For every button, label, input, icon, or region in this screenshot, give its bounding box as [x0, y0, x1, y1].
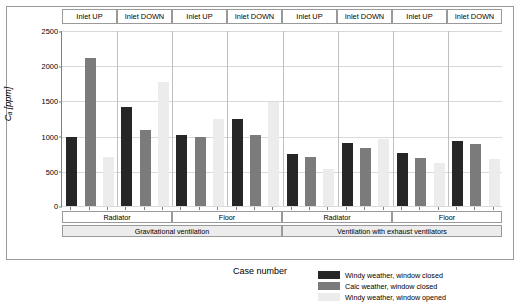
category-separator	[117, 31, 118, 206]
group-label-exhaust-ventilation: Ventilation with exhaust ventilators	[282, 225, 502, 237]
y-tick-mark	[59, 172, 62, 173]
y-tick-label: 1500	[42, 97, 58, 106]
bar-case-5	[140, 130, 151, 206]
legend-label: Windy weather, window closed	[345, 271, 443, 280]
y-tick-label: 2000	[42, 62, 58, 71]
category-separator	[338, 31, 339, 206]
legend-item-windy-window-closed: Windy weather, window closed	[318, 270, 514, 280]
group-label-radiator-2: Radiator	[282, 211, 392, 223]
category-separator	[172, 31, 173, 206]
group-label: Ventilation with exhaust ventilators	[337, 227, 447, 236]
bar-case-13	[287, 154, 298, 206]
bar-case-22	[452, 141, 463, 206]
y-tick-mark	[59, 137, 62, 138]
category-separator	[393, 31, 394, 206]
group-label-floor-2: Floor	[392, 211, 502, 223]
y-tick-label: 0	[54, 202, 58, 211]
legend-item-windy-window-opened: Windy weather, window opened	[318, 292, 514, 302]
legend-item-calc-window-closed: Calc weather, window closed	[318, 281, 514, 291]
header-band-inlet-up-1: Inlet UP	[62, 9, 117, 24]
header-band-inlet-down-1: Inlet DOWN	[117, 9, 172, 24]
bar-case-19	[397, 153, 408, 206]
header-band-label: Inlet DOWN	[125, 12, 164, 21]
group-label-floor-1: Floor	[172, 211, 282, 223]
bar-case-18	[378, 139, 389, 206]
bar-case-14	[305, 157, 316, 206]
group-label: Gravitational ventilation	[135, 227, 210, 236]
header-band-label: Inlet UP	[76, 12, 102, 21]
bar-case-3	[103, 157, 114, 206]
group-label: Floor	[219, 213, 235, 222]
y-tick-mark	[59, 31, 62, 32]
header-band-inlet-down-4: Inlet DOWN	[447, 9, 502, 24]
header-band-label: Inlet UP	[186, 12, 212, 21]
bar-case-21	[434, 163, 445, 206]
y-tick-mark	[59, 66, 62, 67]
y-tick-label: 1000	[42, 132, 58, 141]
group-label: Radiator	[323, 213, 350, 222]
y-tick-label: 500	[46, 167, 58, 176]
group-label: Radiator	[103, 213, 130, 222]
bar-case-24	[489, 159, 500, 206]
legend-label: Calc weather, window closed	[345, 282, 437, 291]
bar-case-23	[470, 144, 481, 206]
bar-case-6	[158, 82, 169, 206]
group-label: Floor	[439, 213, 455, 222]
header-band-inlet-up-2: Inlet UP	[172, 9, 227, 24]
bar-case-11	[250, 135, 261, 206]
header-band-inlet-up-3: Inlet UP	[282, 9, 337, 24]
bar-case-9	[213, 119, 224, 207]
bar-case-20	[415, 158, 426, 206]
y-tick-label: 2500	[42, 27, 58, 36]
group-label-gravitational-ventilation: Gravitational ventilation	[62, 225, 282, 237]
bar-case-7	[176, 135, 187, 206]
bar-case-17	[360, 148, 371, 206]
header-band-label: Inlet DOWN	[235, 12, 274, 21]
header-band-inlet-down-2: Inlet DOWN	[227, 9, 282, 24]
header-band-label: Inlet UP	[406, 12, 432, 21]
header-band-label: Inlet UP	[296, 12, 322, 21]
y-tick-mark	[59, 206, 62, 207]
gridline-0: 0	[62, 206, 502, 207]
bar-case-12	[268, 102, 279, 206]
bar-case-15	[323, 169, 334, 206]
header-band-inlet-down-3: Inlet DOWN	[337, 9, 392, 24]
category-separator	[227, 31, 228, 206]
bar-case-2	[85, 58, 96, 206]
chart-figure: Inlet UP Inlet DOWN Inlet UP Inlet DOWN …	[0, 0, 520, 308]
bar-case-4	[121, 107, 132, 206]
category-separator	[448, 31, 449, 206]
y-tick-mark	[59, 101, 62, 102]
group-label-radiator-1: Radiator	[62, 211, 172, 223]
chart-legend: Windy weather, window closed Calc weathe…	[318, 270, 514, 303]
legend-swatch-icon	[318, 271, 340, 279]
category-separator	[283, 31, 284, 206]
legend-label: Windy weather, window opened	[345, 293, 446, 302]
bar-case-10	[232, 119, 243, 207]
bar-case-1	[66, 137, 77, 206]
plot-area: 2500 2000 1500 1000 500 0	[61, 31, 502, 207]
header-band-label: Inlet DOWN	[345, 12, 384, 21]
legend-swatch-icon	[318, 293, 340, 301]
bar-case-8	[195, 137, 206, 206]
header-band-inlet-up-4: Inlet UP	[392, 9, 447, 24]
y-axis-title: Cₐ [ppm]	[3, 87, 13, 122]
header-band-label: Inlet DOWN	[455, 12, 494, 21]
bar-case-16	[342, 143, 353, 206]
legend-swatch-icon	[318, 282, 340, 290]
